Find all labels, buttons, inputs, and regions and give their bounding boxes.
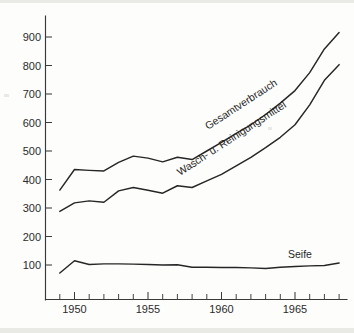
scan-speck-right	[268, 127, 272, 130]
x-tick-marks	[60, 292, 339, 300]
chart-figure: 900 800 700 600 500 400 300 200 100	[0, 0, 354, 333]
y-tick-labels: 900 800 700 600 500 400 300 200 100	[23, 31, 41, 271]
series-line-gesamtverbrauch	[60, 32, 339, 190]
scan-speck-left	[4, 94, 9, 97]
scan-edge-top	[0, 0, 354, 3]
y-tick-label-700: 700	[23, 88, 41, 100]
x-tick-label-1950: 1950	[62, 303, 86, 315]
y-tick-label-400: 400	[23, 174, 41, 186]
y-tick-label-300: 300	[23, 202, 41, 214]
y-tick-marks	[46, 37, 53, 265]
line-chart-canvas: 900 800 700 600 500 400 300 200 100	[0, 0, 354, 333]
series-line-seife	[60, 261, 339, 273]
x-tick-label-1955: 1955	[136, 303, 160, 315]
y-tick-label-200: 200	[23, 231, 41, 243]
series-label-gesamtverbrauch: Gesamtverbrauch	[203, 76, 280, 132]
x-tick-label-1960: 1960	[209, 303, 233, 315]
y-tick-label-800: 800	[23, 60, 41, 72]
scan-edge-bottom	[0, 328, 354, 333]
y-tick-label-600: 600	[23, 117, 41, 129]
x-tick-labels: 1950 1955 1960 1965	[62, 303, 307, 315]
series-annotations: Gesamtverbrauch Wasch- u. Reinigungsmitt…	[175, 76, 313, 260]
series-label-seife: Seife	[288, 248, 312, 260]
y-tick-label-100: 100	[23, 259, 41, 271]
y-tick-label-900: 900	[23, 31, 41, 43]
y-tick-label-500: 500	[23, 145, 41, 157]
series-line-wasch-u-reinigungsmittel	[60, 65, 339, 212]
x-tick-label-1965: 1965	[283, 303, 307, 315]
